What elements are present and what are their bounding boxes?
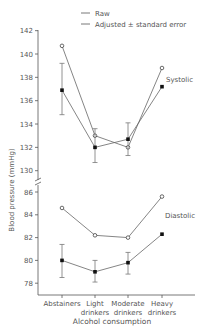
y-axis [35,30,41,295]
data-point-raw [93,234,97,238]
y-tick-label: 142 [20,27,33,35]
y-tick-label: 134 [20,121,34,129]
x-tick-label: drinkers [81,309,110,317]
data-point-adjusted [60,259,64,263]
y-axis-label: Blood pressure (mmHg) [8,148,16,232]
data-point-adjusted [126,137,130,141]
x-tick-label: Abstainers [43,300,80,308]
data-point-adjusted [126,261,130,265]
x-tick-label: drinkers [148,309,177,317]
legend-adjusted-label: Adjusted ± standard error [95,21,186,29]
series-line [62,87,162,148]
x-ticks: AbstainersLightdrinkersModeratedrinkersH… [43,295,176,317]
series-line [62,197,162,238]
diastolic-ticks: 8684828078 [24,189,38,288]
systolic-label: Systolic [166,76,193,84]
x-tick-label: Moderate [111,300,144,308]
data-point-raw [60,206,64,210]
y-tick-label: 136 [20,97,34,105]
y-tick-label: 78 [24,280,33,288]
diastolic-label: Diastolic [165,212,195,220]
series-group [60,44,164,282]
series-line [62,234,162,272]
data-point-adjusted [93,270,97,274]
y-tick-label: 82 [24,234,33,242]
y-tick-label: 138 [20,74,33,82]
systolic-ticks: 142140138136134132130 [20,27,38,175]
data-point-adjusted [60,88,64,92]
y-tick-label: 84 [24,211,33,219]
data-point-raw [160,195,164,199]
x-axis-label: Alcohol consumption [73,317,152,326]
series-line [62,46,162,148]
data-point-raw [126,236,130,240]
y-tick-label: 130 [20,167,33,175]
legend-raw-label: Raw [95,10,110,18]
x-tick-label: Heavy [151,300,173,308]
data-point-adjusted [160,85,164,89]
data-point-adjusted [93,146,97,150]
y-tick-label: 132 [20,144,33,152]
y-tick-label: 86 [24,189,33,197]
data-point-raw [160,66,164,70]
y-tick-label: 140 [20,51,33,59]
blood-pressure-chart: Raw Adjusted ± standard error 1421401381… [0,0,201,332]
x-tick-label: Light [86,300,104,308]
y-tick-label: 80 [24,257,33,265]
axis-break-mark [35,182,41,185]
x-tick-label: drinkers [114,309,143,317]
data-point-raw [60,44,64,48]
data-point-adjusted [160,232,164,236]
legend: Raw Adjusted ± standard error [81,10,186,29]
